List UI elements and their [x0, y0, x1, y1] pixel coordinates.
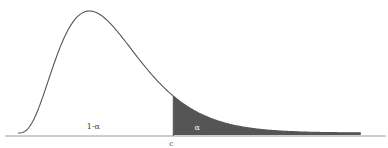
rejection-region-area — [173, 96, 360, 135]
density-chart: 1-α α c — [0, 0, 388, 148]
rejection-region-label: α — [195, 123, 201, 132]
acceptance-region-label: 1-α — [87, 122, 101, 131]
critical-value-label: c — [169, 140, 173, 148]
